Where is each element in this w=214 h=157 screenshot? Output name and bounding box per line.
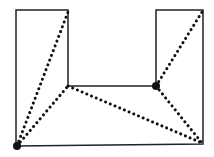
diagonal-line <box>17 86 68 146</box>
polygon-diagram <box>0 0 214 157</box>
vertex-dot <box>152 82 160 90</box>
polygon-outline <box>16 10 203 146</box>
diagonal-line <box>156 86 202 143</box>
diagonals <box>17 12 202 146</box>
diagonal-line <box>17 12 68 146</box>
vertex-dot <box>13 142 21 150</box>
diagonal-line <box>68 86 202 143</box>
diagonal-line <box>156 12 202 86</box>
